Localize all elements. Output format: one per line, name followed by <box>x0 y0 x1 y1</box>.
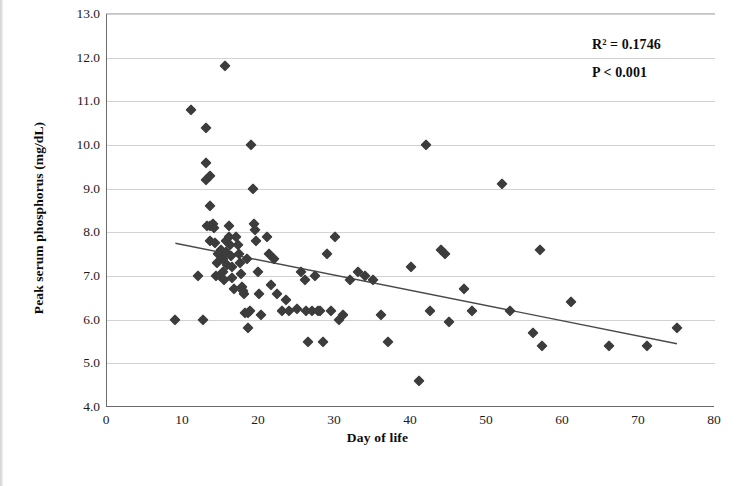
data-point <box>223 220 235 232</box>
y-axis-tick-label: 12.0 <box>58 50 100 66</box>
gridline <box>107 58 715 59</box>
x-axis-tick-label: 70 <box>616 412 660 428</box>
data-point <box>671 323 683 335</box>
r-squared-annotation: R² = 0.1746 <box>592 37 661 53</box>
data-point <box>302 336 314 348</box>
data-point <box>424 305 436 317</box>
data-point <box>565 296 577 308</box>
y-axis-tick-label: 9.0 <box>58 181 100 197</box>
data-point <box>325 305 337 317</box>
data-point <box>641 340 653 352</box>
x-axis-tick-label: 80 <box>692 412 736 428</box>
data-point <box>466 305 478 317</box>
p-value-annotation: P < 0.001 <box>592 65 647 81</box>
data-point <box>246 139 258 151</box>
y-axis-tick-label: 10.0 <box>58 137 100 153</box>
x-axis-title-text: Day of life <box>347 430 408 446</box>
y-axis-tick-label: 11.0 <box>58 93 100 109</box>
data-point <box>536 340 548 352</box>
y-axis-tick-label: 7.0 <box>58 268 100 284</box>
data-point <box>205 200 217 212</box>
x-axis-tick-label: 0 <box>84 412 128 428</box>
x-axis-tick-label: 60 <box>540 412 584 428</box>
x-axis-tick-label: 40 <box>388 412 432 428</box>
data-point <box>534 244 546 256</box>
data-point <box>219 61 231 73</box>
gridline <box>107 189 715 190</box>
gridline <box>107 14 715 15</box>
data-point <box>309 270 321 282</box>
data-point <box>247 183 259 195</box>
data-point <box>192 270 204 282</box>
x-axis-title: Day of life <box>0 430 741 446</box>
data-point <box>197 314 209 326</box>
data-point <box>243 323 255 335</box>
data-point <box>170 314 182 326</box>
data-point <box>250 235 262 247</box>
y-axis-title: Peak serum phosphorus (mg/dL) <box>31 38 47 398</box>
x-axis-tick-label: 10 <box>160 412 204 428</box>
data-point <box>527 327 539 339</box>
y-axis-tick-label: 13.0 <box>58 6 100 22</box>
data-point <box>413 375 425 387</box>
gridline <box>107 232 715 233</box>
data-point <box>280 294 292 306</box>
data-point <box>439 248 451 260</box>
data-point <box>200 157 212 169</box>
gridline <box>107 363 715 364</box>
x-axis-tick-label: 20 <box>236 412 280 428</box>
data-point <box>317 336 329 348</box>
data-point <box>405 262 417 274</box>
data-point <box>322 248 334 260</box>
data-point <box>504 305 516 317</box>
figure-caption <box>14 455 730 479</box>
figure-container: Peak serum phosphorus (mg/dL) 4.05.06.07… <box>0 0 741 486</box>
data-point <box>185 104 197 116</box>
data-point <box>458 283 470 295</box>
y-axis-tick-label: 5.0 <box>58 355 100 371</box>
data-point <box>603 340 615 352</box>
gridline <box>107 145 715 146</box>
data-point <box>443 316 455 328</box>
gridline <box>107 101 715 102</box>
data-point <box>382 336 394 348</box>
data-point <box>420 139 432 151</box>
x-axis-tick-label: 30 <box>312 412 356 428</box>
x-axis-tick-label: 50 <box>464 412 508 428</box>
data-point <box>253 288 265 300</box>
scatter-chart: Peak serum phosphorus (mg/dL) 4.05.06.07… <box>0 0 741 440</box>
y-axis-tick-label: 8.0 <box>58 224 100 240</box>
y-axis-tick-label: 6.0 <box>58 312 100 328</box>
data-point <box>200 122 212 134</box>
